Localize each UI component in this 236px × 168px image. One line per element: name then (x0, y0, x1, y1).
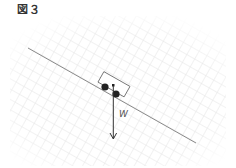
front-wheel-icon (101, 83, 108, 90)
figure-3: 図３ W (0, 0, 236, 168)
inclined-plane-diagram (0, 0, 236, 168)
weight-label: W (119, 109, 128, 119)
